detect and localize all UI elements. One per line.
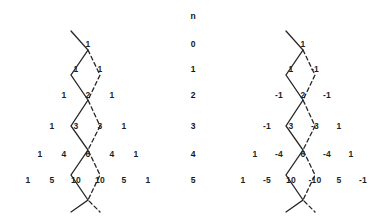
signed-pascal-cell-r5-c0: 1 (232, 175, 254, 186)
signed-pascal-cell-r4-c4: 1 (340, 149, 362, 160)
signed-pascal-cell-r2-c1: 2 (292, 90, 314, 101)
signed-pascal-cell-r5-c4: 5 (328, 175, 350, 186)
pascal-cell-r2-c1: 2 (77, 90, 99, 101)
pascal-cell-r4-c1: 4 (53, 149, 75, 160)
signed-pascal-cell-r3-c1: 3 (280, 121, 302, 132)
row-index-1: 1 (183, 64, 203, 75)
pascal-cell-r0-c0: 1 (77, 39, 99, 50)
signed-pascal-cell-r3-c2: -3 (304, 121, 326, 132)
pascal-cell-r5-c4: 5 (113, 175, 135, 186)
column-header-n: n (183, 11, 203, 22)
zigzag-paths-layer (0, 0, 387, 220)
pascal-zigzag-figure: n 0123451111211331146411510105111-1-12-1… (0, 0, 387, 220)
pascal-cell-r3-c0: 1 (41, 121, 63, 132)
signed-pascal-cell-r5-c3: -10 (304, 175, 326, 186)
signed-pascal-cell-r5-c5: -1 (352, 175, 374, 186)
pascal-cell-r5-c2: 10 (65, 175, 87, 186)
pascal-cell-r4-c3: 4 (101, 149, 123, 160)
signed-pascal-cell-r4-c3: -4 (316, 149, 338, 160)
pascal-cell-r4-c2: 6 (77, 149, 99, 160)
row-index-4: 4 (183, 149, 203, 160)
signed-pascal-cell-r2-c2: -1 (316, 90, 338, 101)
signed-pascal-cell-r3-c0: -1 (256, 121, 278, 132)
signed-pascal-cell-r5-c1: -5 (256, 175, 278, 186)
pascal-cell-r5-c5: 1 (137, 175, 159, 186)
pascal-cell-r1-c0: 1 (65, 64, 87, 75)
signed-pascal-cell-r0-c0: 1 (292, 39, 314, 50)
signed-pascal-cell-r3-c3: 1 (328, 121, 350, 132)
pascal-cell-r3-c2: 3 (89, 121, 111, 132)
signed-pascal-cell-r1-c0: 1 (280, 64, 302, 75)
pascal-cell-r4-c4: 1 (125, 149, 147, 160)
pascal-cell-r5-c1: 5 (41, 175, 63, 186)
pascal-cell-r5-c0: 1 (17, 175, 39, 186)
pascal-cell-r5-c3: 10 (89, 175, 111, 186)
pascal-cell-r3-c1: 3 (65, 121, 87, 132)
pascal-cell-r4-c0: 1 (29, 149, 51, 160)
row-index-5: 5 (183, 175, 203, 186)
pascal-cell-r1-c1: 1 (89, 64, 111, 75)
row-index-0: 0 (183, 39, 203, 50)
signed-pascal-cell-r4-c0: 1 (244, 149, 266, 160)
row-index-3: 3 (183, 121, 203, 132)
signed-pascal-cell-r4-c2: 6 (292, 149, 314, 160)
row-index-2: 2 (183, 90, 203, 101)
pascal-cell-r3-c3: 1 (113, 121, 135, 132)
pascal-cell-r2-c0: 1 (53, 90, 75, 101)
signed-pascal-cell-r4-c1: -4 (268, 149, 290, 160)
signed-pascal-cell-r5-c2: 10 (280, 175, 302, 186)
signed-pascal-cell-r1-c1: -1 (304, 64, 326, 75)
signed-pascal-cell-r2-c0: -1 (268, 90, 290, 101)
pascal-cell-r2-c2: 1 (101, 90, 123, 101)
